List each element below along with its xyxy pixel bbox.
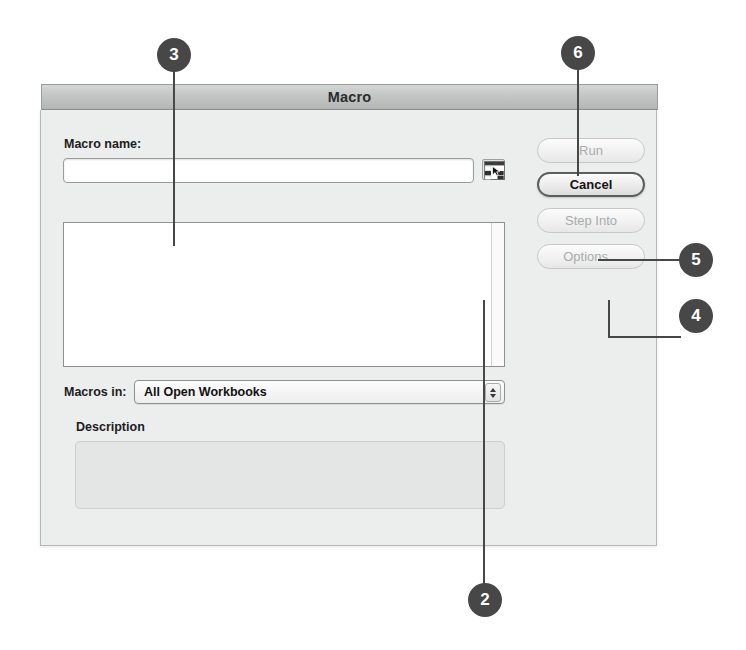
dialog-body: Macro name: Macros in: A bbox=[41, 110, 656, 545]
callout-badge-4: 4 bbox=[679, 299, 713, 333]
spreadsheet-range-icon[interactable] bbox=[482, 159, 505, 180]
run-button[interactable]: Run bbox=[537, 138, 645, 163]
description-box bbox=[75, 441, 505, 509]
options-button[interactable]: Options... bbox=[537, 244, 645, 269]
cancel-button[interactable]: Cancel bbox=[537, 172, 645, 197]
callout-badge-3: 3 bbox=[157, 38, 191, 72]
description-label: Description bbox=[76, 420, 145, 434]
step-into-button-label: Step Into bbox=[565, 213, 617, 228]
macro-dialog: Macro Macro name: Macr bbox=[40, 110, 657, 546]
macros-in-label: Macros in: bbox=[64, 385, 127, 399]
run-button-label: Run bbox=[579, 143, 603, 158]
callout-badge-2-number: 2 bbox=[480, 590, 489, 610]
macro-name-input[interactable] bbox=[63, 158, 474, 183]
callout-badge-6: 6 bbox=[561, 36, 595, 70]
callout-badge-3-number: 3 bbox=[169, 45, 178, 65]
options-button-label: Options... bbox=[563, 249, 619, 264]
macro-list-scrollbar[interactable] bbox=[491, 223, 504, 366]
dialog-titlebar[interactable]: Macro bbox=[41, 84, 658, 110]
callout-leader-3 bbox=[173, 70, 175, 246]
stepper-arrows-icon[interactable] bbox=[485, 383, 501, 402]
callout-leader-4-horizontal bbox=[608, 336, 681, 338]
macro-name-label: Macro name: bbox=[64, 137, 141, 151]
callout-leader-2-lower bbox=[483, 546, 485, 586]
callout-badge-4-number: 4 bbox=[691, 306, 700, 326]
macros-in-selected-value: All Open Workbooks bbox=[144, 381, 267, 403]
callout-leader-4-vertical bbox=[608, 300, 610, 338]
step-into-button[interactable]: Step Into bbox=[537, 208, 645, 233]
screenshot-canvas: Macro Macro name: Macr bbox=[0, 0, 746, 650]
dialog-title: Macro bbox=[328, 89, 372, 105]
callout-leader-2-upper bbox=[483, 300, 485, 548]
callout-badge-2: 2 bbox=[468, 583, 502, 617]
callout-badge-5-number: 5 bbox=[691, 250, 700, 270]
callout-badge-6-number: 6 bbox=[573, 43, 582, 63]
macros-in-dropdown[interactable]: All Open Workbooks bbox=[134, 380, 505, 404]
callout-leader-6 bbox=[577, 68, 579, 176]
cancel-button-label: Cancel bbox=[570, 177, 613, 192]
macro-list-box[interactable] bbox=[63, 222, 505, 367]
callout-leader-5 bbox=[598, 259, 681, 261]
callout-badge-5: 5 bbox=[679, 243, 713, 277]
